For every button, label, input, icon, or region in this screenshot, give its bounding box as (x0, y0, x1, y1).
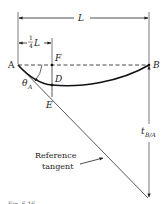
span-dimension: L (19, 13, 148, 23)
point-b-label: B (152, 60, 160, 70)
annotation-line2: tangent (42, 162, 74, 171)
angle-theta-subscript: A (27, 83, 33, 90)
point-d-dot (51, 84, 54, 87)
point-a-label: A (7, 60, 15, 70)
figure-caption: Fig. 6.16 (8, 200, 35, 204)
deflection-curve (18, 65, 149, 86)
quarter-denominator: 4 (29, 42, 33, 49)
point-f-label: F (54, 53, 62, 63)
angle-arc (35, 65, 42, 81)
tangential-deviation-subscript: B/A (144, 131, 156, 138)
point-f-dot (51, 64, 54, 67)
point-d-label: D (54, 74, 62, 84)
span-label: L (77, 13, 84, 23)
point-e-label: E (45, 100, 53, 110)
annotation-line1: Reference (35, 151, 77, 160)
tangential-deviation-dimension: t B/A (141, 66, 156, 197)
quarter-variable: L (33, 38, 40, 48)
reference-tangent-annotation: Reference tangent (35, 151, 103, 171)
quarter-span-dimension: 1 4 L (19, 34, 51, 49)
point-b-dot (148, 64, 151, 67)
beam-deflection-diagram: L 1 4 L t B/A (0, 0, 168, 204)
quarter-numerator: 1 (29, 34, 33, 41)
